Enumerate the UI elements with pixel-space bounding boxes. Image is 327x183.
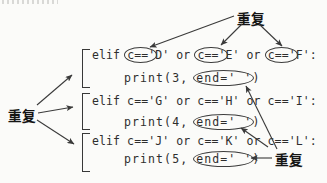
arrow-top-to-oval-d xyxy=(150,16,234,47)
code-text: elif c=='J' or c=='K' or c=='L': xyxy=(92,134,317,148)
code-text: ) xyxy=(252,152,260,166)
code-text: elif c=='G' or c=='H' or c=='I': xyxy=(92,94,317,108)
figure-canvas: elif c=='D' or c=='E' or c=='F': print(3… xyxy=(0,0,327,183)
circled-comparison-1: c==' xyxy=(127,49,155,62)
code-block-bracket-2 xyxy=(82,93,90,130)
code-line-print-4: print(4, end=' ') xyxy=(124,116,260,129)
repeat-label-right: 重复 xyxy=(275,149,303,169)
code-block-bracket-1 xyxy=(82,49,90,88)
code-block-bracket-3 xyxy=(82,133,90,172)
repeat-label-top: 重复 xyxy=(237,8,265,28)
circled-end-param-3: end=' ' xyxy=(196,153,252,166)
code-text: print(4, xyxy=(124,115,196,129)
circled-end-param-1: end=' ' xyxy=(196,72,252,85)
code-text: D' or xyxy=(155,48,197,62)
repeat-label-left: 重复 xyxy=(8,105,36,125)
code-line-print-3: print(3, end=' ') xyxy=(124,72,260,85)
circled-comparison-2: c==' xyxy=(197,49,225,62)
circled-comparison-3: c==' xyxy=(268,49,296,62)
circled-end-param-2: end=' ' xyxy=(196,116,252,129)
code-line-elif-ghi: elif c=='G' or c=='H' or c=='I': xyxy=(92,95,317,108)
code-text: ) xyxy=(252,115,260,129)
arrow-left-to-bracket-1 xyxy=(37,75,72,105)
arrow-left-to-bracket-2 xyxy=(38,107,73,113)
code-text: elif xyxy=(92,48,127,62)
cropped-text-artifact xyxy=(2,0,58,4)
code-line-print-5: print(5, end=' ') xyxy=(124,153,260,166)
code-text: E' or xyxy=(226,48,268,62)
code-text: print(3, xyxy=(124,71,196,85)
code-text: ) xyxy=(252,71,260,85)
code-text: print(5, xyxy=(124,152,196,166)
arrow-left-to-bracket-3 xyxy=(37,120,74,144)
code-text: F': xyxy=(296,48,317,62)
code-line-elif-def: elif c=='D' or c=='E' or c=='F': xyxy=(92,49,317,62)
code-line-elif-jkl: elif c=='J' or c=='K' or c=='L': xyxy=(92,135,317,148)
